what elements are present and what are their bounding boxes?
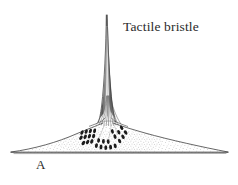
panel-label-a: A (36, 158, 45, 171)
tactile-bristle-label: Tactile bristle (123, 20, 199, 34)
figure-root: Tactile bristle A (0, 0, 238, 185)
bristle-socket (89, 96, 127, 126)
